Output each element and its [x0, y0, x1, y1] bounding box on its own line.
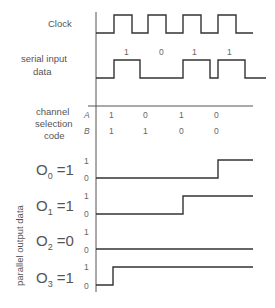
serial-bit: 1	[192, 47, 197, 57]
o2-high-tick: 1	[84, 227, 89, 237]
o1-waveform	[96, 196, 253, 214]
o0-waveform	[96, 160, 253, 178]
code-b-value: 0	[179, 126, 184, 136]
output-o3-name: O3 =1	[36, 269, 74, 289]
o1-high-tick: 1	[84, 191, 89, 201]
clock-waveform	[96, 15, 253, 33]
serial-label-line1: serial input	[21, 53, 67, 64]
o3-low-tick: 0	[84, 281, 89, 291]
channel-label-line2: selection	[35, 118, 73, 129]
o0-high-tick: 1	[84, 156, 89, 166]
output-o0-name: O0 =1	[36, 161, 74, 181]
code-b-value: 0	[214, 126, 219, 136]
o0-low-tick: 0	[84, 173, 89, 183]
output-o2-name: O2 =0	[36, 232, 74, 252]
parallel-output-label: parallel output data	[14, 204, 25, 286]
serial-bit: 1	[124, 47, 129, 57]
channel-label-line3: code	[44, 130, 65, 141]
code-a-value: 1	[109, 110, 114, 120]
output-o1-name: O1 =1	[36, 197, 74, 217]
channel-label-line1: channel	[36, 106, 69, 117]
serial-label-line2: data	[33, 66, 52, 77]
o3-high-tick: 1	[84, 262, 89, 272]
o3-waveform	[96, 267, 253, 285]
code-row-a-name: A	[83, 110, 90, 120]
o2-low-tick: 0	[84, 245, 89, 255]
serial-waveform	[96, 60, 266, 78]
code-b-value: 1	[109, 126, 114, 136]
code-b-value: 1	[143, 126, 148, 136]
serial-bit: 0	[159, 47, 164, 57]
serial-bit: 1	[227, 47, 232, 57]
o1-low-tick: 0	[84, 209, 89, 219]
code-row-b-name: B	[84, 126, 90, 136]
timing-diagram: Clock serial input data 1 0 1 1 channel …	[0, 0, 275, 308]
code-a-value: 0	[214, 110, 219, 120]
code-a-value: 0	[143, 110, 148, 120]
clock-label: Clock	[48, 18, 72, 29]
code-a-value: 1	[179, 110, 184, 120]
